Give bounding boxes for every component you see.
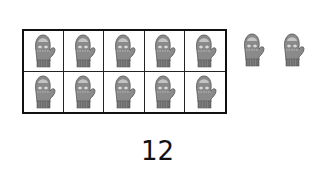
total-count: 12 bbox=[0, 136, 315, 166]
ten-frame-cell bbox=[104, 72, 144, 113]
ten-frame-cell bbox=[24, 31, 64, 72]
ten-frame-cell bbox=[104, 31, 144, 72]
ten-frame-cell bbox=[145, 31, 185, 72]
ten-frame-cell bbox=[64, 72, 104, 113]
mitten-icon bbox=[192, 74, 218, 110]
mitten-icon bbox=[71, 33, 97, 69]
ten-frame-cell bbox=[24, 72, 64, 113]
mitten-icon bbox=[111, 74, 137, 110]
mitten-icon bbox=[280, 32, 306, 68]
mitten-icon bbox=[151, 74, 177, 110]
mitten-icon bbox=[111, 33, 137, 69]
ten-frame-cell bbox=[185, 31, 225, 72]
ten-frame-cell bbox=[145, 72, 185, 113]
mitten-icon bbox=[31, 33, 57, 69]
mitten-icon bbox=[240, 32, 266, 68]
mitten-icon bbox=[31, 74, 57, 110]
mitten-icon bbox=[71, 74, 97, 110]
mitten-icon bbox=[151, 33, 177, 69]
ten-frame-cell bbox=[185, 72, 225, 113]
mitten-icon bbox=[192, 33, 218, 69]
ten-frame bbox=[22, 29, 227, 114]
ten-frame-cell bbox=[64, 31, 104, 72]
